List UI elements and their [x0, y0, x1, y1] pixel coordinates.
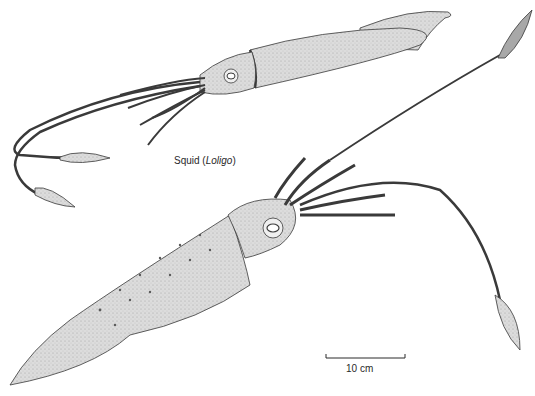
- figure-caption: Squid (Loligo): [174, 155, 236, 166]
- caption-suffix: ): [232, 155, 235, 166]
- squid-illustration: Squid (Loligo) 10 cm: [0, 0, 535, 396]
- scale-bar: [326, 354, 405, 358]
- caption-genus: Loligo: [206, 155, 233, 166]
- small-squid: [14, 11, 451, 207]
- scale-bar-label: 10 cm: [346, 363, 373, 374]
- caption-prefix: Squid (: [174, 155, 206, 166]
- squid-drawing: [0, 0, 535, 396]
